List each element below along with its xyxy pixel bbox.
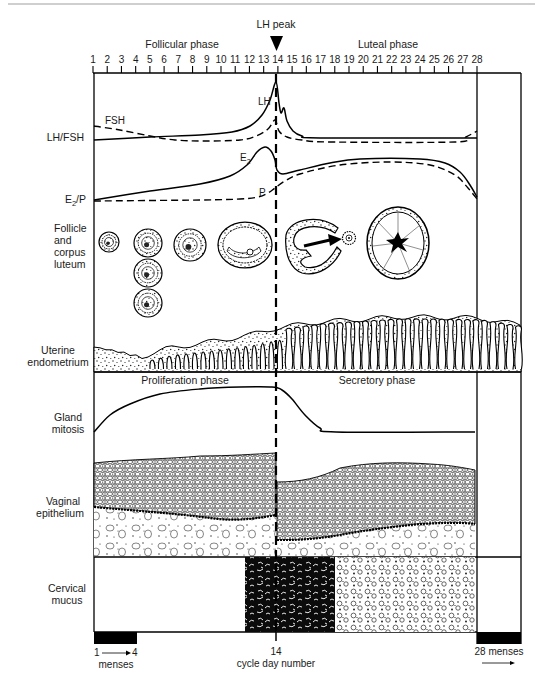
day-number: 6 — [161, 54, 167, 65]
developing-follicle — [134, 259, 162, 287]
estradiol-curve — [94, 147, 477, 200]
follicle-illustrations — [99, 222, 272, 317]
gland — [150, 360, 155, 369]
gland — [319, 324, 327, 369]
lh-peak-label: LH peak — [256, 18, 296, 30]
day-number: 20 — [358, 54, 370, 65]
gland — [302, 326, 310, 369]
cycle-day-number-label: cycle day number — [237, 658, 316, 669]
developing-follicle — [99, 232, 119, 252]
day-number: 18 — [329, 54, 341, 65]
gland — [336, 323, 344, 369]
developing-follicle — [134, 229, 162, 257]
gland — [218, 350, 223, 369]
gland — [235, 348, 240, 369]
lh-curve — [94, 82, 477, 140]
day-number: 1 — [90, 54, 96, 65]
gland — [404, 319, 412, 369]
peak-day-number: 14 — [270, 646, 282, 657]
day-number: 2 — [104, 54, 110, 65]
gland — [396, 319, 404, 369]
day-number: 23 — [400, 54, 412, 65]
developing-follicle — [134, 289, 162, 317]
day-number: 13 — [258, 54, 270, 65]
lh-peak-arrow-icon — [270, 36, 283, 51]
day-number: 22 — [386, 54, 398, 65]
next-cycle-arrowhead-icon — [510, 661, 515, 665]
day-number: 12 — [244, 54, 256, 65]
gland — [167, 356, 172, 369]
svg-text:Uterine: Uterine — [41, 344, 75, 356]
gland — [184, 354, 189, 369]
gland — [362, 321, 370, 369]
row-label-follicle: Follicle and corpus luteum — [54, 222, 87, 270]
day-number: 21 — [372, 54, 384, 65]
cervical-mucus-luteal — [335, 557, 475, 632]
svg-text:mucus: mucus — [52, 594, 83, 606]
svg-text:luteum: luteum — [54, 258, 86, 270]
menses-start-day: 1 — [94, 647, 100, 658]
p-curve-label: P — [259, 187, 266, 198]
menses-28-label: 28 menses — [475, 646, 524, 657]
day-number: 7 — [176, 54, 182, 65]
gland — [294, 327, 302, 369]
proliferation-phase-label: Proliferation phase — [141, 374, 229, 386]
gland — [438, 319, 446, 369]
row-label-gland-mitosis: Gland mitosis — [52, 411, 85, 435]
gland — [192, 353, 197, 369]
row-label-e2-p: E2/P — [65, 193, 86, 208]
gland — [175, 355, 180, 369]
svg-text:Follicle: Follicle — [54, 222, 87, 234]
gland — [413, 319, 421, 369]
gland — [421, 319, 429, 369]
gland — [328, 323, 336, 369]
gland — [277, 340, 282, 369]
day-number: 10 — [215, 54, 227, 65]
day-number: 25 — [429, 54, 441, 65]
day-number: 27 — [457, 54, 469, 65]
day-number: 14 — [272, 54, 284, 65]
row-label-endometrium: Uterine endometrium — [27, 344, 89, 368]
gland — [158, 358, 163, 369]
svg-text:epithelium: epithelium — [36, 507, 84, 519]
day-axis: 1234567891011121314151617181920212223242… — [90, 54, 483, 73]
lh-curve-label: LH — [258, 96, 271, 107]
gland — [489, 322, 497, 369]
luteal-phase-label: Luteal phase — [358, 38, 418, 50]
menses-bar-end — [477, 632, 521, 644]
gland — [226, 349, 231, 369]
day-number: 11 — [230, 54, 241, 65]
ruptured-follicle-illustration — [286, 220, 356, 274]
gland — [252, 345, 257, 369]
row-label-lh-fsh: LH/FSH — [47, 131, 84, 143]
svg-text:mitosis: mitosis — [52, 423, 85, 435]
day-number: 26 — [443, 54, 455, 65]
e2-curve-label: E2 — [240, 152, 251, 165]
gland — [201, 352, 206, 369]
gland — [260, 344, 265, 369]
gland — [515, 326, 523, 369]
gland — [269, 342, 274, 369]
gland — [379, 320, 387, 369]
day-number: 5 — [147, 54, 153, 65]
gland — [387, 319, 395, 369]
gland — [472, 320, 480, 369]
secretory-phase-label: Secretory phase — [339, 374, 416, 386]
svg-text:corpus: corpus — [54, 246, 86, 258]
gland — [447, 319, 455, 369]
gland — [209, 351, 214, 369]
day-number: 4 — [133, 54, 139, 65]
gland — [506, 324, 514, 369]
gland-mitosis-curve — [94, 387, 475, 433]
day-number: 17 — [315, 54, 327, 65]
graafian-follicle — [218, 222, 272, 268]
day-number: 15 — [287, 54, 299, 65]
svg-text:and: and — [54, 234, 72, 246]
day-number: 24 — [415, 54, 427, 65]
vaginal-epithelium-illustration — [94, 453, 475, 557]
menses-range-arrowhead-icon — [126, 651, 131, 656]
row-label-vaginal-epithelium: Vaginal epithelium — [36, 495, 84, 519]
day-number: 16 — [301, 54, 313, 65]
row-label-cervical-mucus: Cervical mucus — [48, 582, 86, 606]
gland — [498, 323, 506, 369]
